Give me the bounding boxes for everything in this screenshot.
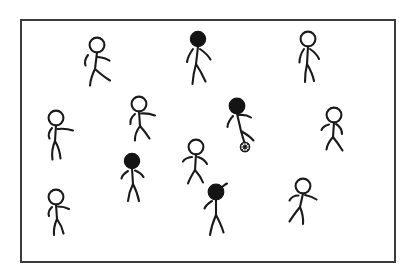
figure-head-filled [208, 184, 224, 200]
stick-figure-scene: Stick figure soccer scene Thirteen hand-… [0, 0, 418, 279]
figure-torso [56, 205, 57, 220]
figure-head-filled [124, 153, 139, 168]
figure-torso [195, 155, 196, 171]
scene-canvas [0, 0, 418, 279]
figure-head-filled [190, 31, 205, 46]
figure-head-open [296, 179, 311, 194]
figure-head-filled [229, 98, 245, 114]
figure-head-open [49, 190, 64, 205]
figure-head-open [132, 97, 147, 112]
figure-head-open [301, 32, 316, 47]
figure-head-open [90, 38, 105, 53]
figure-head-open [49, 111, 64, 126]
figure-head-open [189, 140, 204, 155]
figure-torso [307, 47, 308, 65]
soccer-ball [240, 142, 249, 151]
figure-head-open [327, 108, 342, 123]
figure-torso [55, 126, 56, 142]
figure-torso [139, 112, 140, 127]
figure-torso [132, 169, 133, 185]
figure-torso [333, 123, 334, 138]
